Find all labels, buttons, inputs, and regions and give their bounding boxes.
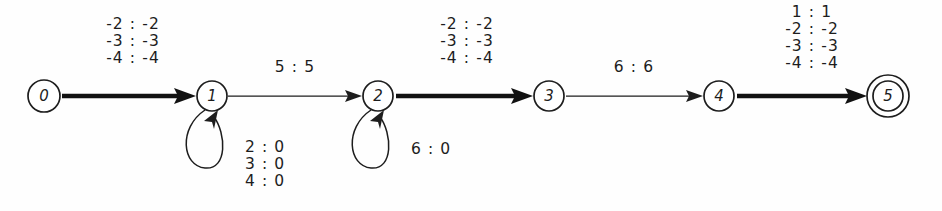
self-loop-arrowhead-1 xyxy=(204,110,218,129)
transition-label-line: -3 : -3 xyxy=(106,32,160,50)
self-loop-label-state-2: 6 : 0 xyxy=(411,140,451,158)
transition-label-line: 1 : 1 xyxy=(792,3,832,21)
self-loop-label-line: 2 : 0 xyxy=(245,138,285,156)
self-loop-state-1 xyxy=(186,110,223,168)
self-loop-label-line: 3 : 0 xyxy=(245,155,285,173)
state-label-5: 5 xyxy=(883,87,893,105)
self-loop-arrowhead-2 xyxy=(370,110,384,129)
transition-label-line: -2 : -2 xyxy=(106,15,160,33)
transition-3-to-4 xyxy=(566,90,703,102)
transition-label-line: -4 : -4 xyxy=(785,54,839,72)
transition-label-line: -2 : -2 xyxy=(440,15,494,33)
self-loop-label-line: 6 : 0 xyxy=(411,140,451,158)
transition-label-0-1: -2 : -2 -3 : -3 -4 : -4 xyxy=(106,15,160,67)
self-loop-label-state-1: 2 : 0 3 : 0 4 : 0 xyxy=(245,138,285,190)
state-node-4[interactable]: 4 xyxy=(704,81,734,111)
transition-label-line: -4 : -4 xyxy=(106,49,160,67)
transition-0-to-1 xyxy=(62,88,196,104)
transition-label-2-3: -2 : -2 -3 : -3 -4 : -4 xyxy=(440,15,494,67)
state-label-2: 2 xyxy=(373,87,383,105)
transition-label-line: 5 : 5 xyxy=(275,58,315,76)
transition-label-1-2: 5 : 5 xyxy=(275,58,315,76)
self-loop-path-2 xyxy=(352,110,389,168)
automaton-diagram: 0 1 2 3 4 5 -2 : -2 -3 : -3 -4 : -4 xyxy=(0,0,942,211)
state-label-4: 4 xyxy=(714,87,724,105)
state-node-2[interactable]: 2 xyxy=(363,81,393,111)
state-label-0: 0 xyxy=(39,87,49,105)
transition-4-to-5 xyxy=(737,88,867,104)
state-node-3[interactable]: 3 xyxy=(534,81,564,111)
transition-label-line: -4 : -4 xyxy=(440,49,494,67)
transition-2-to-3 xyxy=(396,88,533,104)
state-node-0[interactable]: 0 xyxy=(28,80,60,112)
state-label-1: 1 xyxy=(207,87,217,105)
self-loop-state-2 xyxy=(352,110,389,168)
state-node-5[interactable]: 5 xyxy=(867,75,909,117)
self-loop-path-1 xyxy=(186,110,223,168)
transition-label-line: -3 : -3 xyxy=(440,32,494,50)
transition-label-line: 6 : 6 xyxy=(614,58,654,76)
state-label-3: 3 xyxy=(544,87,554,105)
transition-1-to-2 xyxy=(228,90,362,102)
transition-label-line: -2 : -2 xyxy=(785,20,839,38)
transition-label-4-5: 1 : 1 -2 : -2 -3 : -3 -4 : -4 xyxy=(785,3,839,72)
transition-label-line: -3 : -3 xyxy=(785,37,839,55)
self-loop-label-line: 4 : 0 xyxy=(245,172,285,190)
diagram-canvas: 0 1 2 3 4 5 -2 : -2 -3 : -3 -4 : -4 xyxy=(0,0,942,211)
transition-label-3-4: 6 : 6 xyxy=(614,58,654,76)
state-node-1[interactable]: 1 xyxy=(197,81,227,111)
